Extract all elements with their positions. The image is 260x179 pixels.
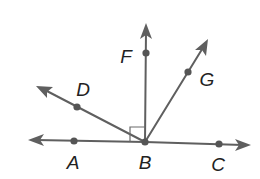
point-B [141, 138, 148, 145]
diagram-canvas [0, 0, 260, 179]
ray-BF [145, 31, 146, 142]
point-G [184, 68, 191, 75]
ray-BC [145, 142, 243, 145]
point-F [142, 49, 149, 56]
point-C [215, 140, 222, 147]
ray-BG [145, 46, 204, 142]
geometry-diagram: F D G A B C [0, 0, 260, 179]
arrowhead-G-icon [195, 39, 208, 56]
point-D [73, 103, 80, 110]
label-F: F [120, 47, 132, 66]
label-C: C [211, 155, 225, 174]
point-A [70, 137, 77, 144]
label-A: A [67, 153, 80, 172]
label-G: G [200, 70, 215, 89]
label-B: B [139, 153, 152, 172]
ray-BA [36, 140, 145, 142]
label-D: D [76, 80, 90, 99]
